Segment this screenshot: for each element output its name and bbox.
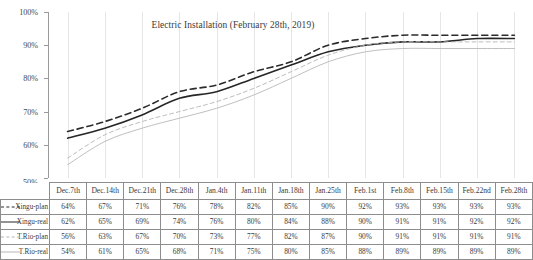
table-cell: 69% <box>124 215 161 230</box>
table-cell: 85% <box>272 200 309 215</box>
y-tick-label: 100% <box>19 8 38 17</box>
table-column-header: Dec.14th <box>87 183 124 200</box>
table-cell: 92% <box>347 200 384 215</box>
table-cell: 73% <box>198 230 235 245</box>
legend-cell: Xingu-plan <box>1 200 50 215</box>
table-cell: 89% <box>421 245 458 260</box>
chart-plot-area: 100%90%80%70%60% Electric Installation (… <box>0 0 533 182</box>
table-cell: 61% <box>87 245 124 260</box>
table-corner-cell <box>1 183 50 200</box>
table-row: Xingu-real62%65%69%74%76%80%84%88%90%91%… <box>1 215 533 230</box>
table-cell: 62% <box>50 215 87 230</box>
table-cell: 64% <box>50 200 87 215</box>
table-cell: 91% <box>458 230 495 245</box>
table-cell: 85% <box>309 245 346 260</box>
table-column-header: Jan.11th <box>235 183 272 200</box>
table-cell: 89% <box>495 245 532 260</box>
legend-label: Xingu-plan <box>15 200 48 214</box>
legend-label: T.Rio-real <box>19 245 48 259</box>
table-cell: 70% <box>161 230 198 245</box>
legend-cell: Xingu-real <box>1 215 50 230</box>
table-column-header: Feb.15th <box>421 183 458 200</box>
table-cell: 93% <box>421 200 458 215</box>
table-column-header: Jan.4th <box>198 183 235 200</box>
dark-solid-line-icon <box>1 219 14 225</box>
table-cell: 74% <box>161 215 198 230</box>
table-row: T.Rio-plan56%63%67%70%73%77%82%87%90%91%… <box>1 230 533 245</box>
y-tick-mark <box>44 178 48 179</box>
series-line-xingu-real <box>68 38 515 138</box>
table-column-header: Dec.28th <box>161 183 198 200</box>
dark-dashed-line-icon <box>1 204 12 210</box>
table-body: Xingu-plan64%67%71%76%78%82%85%90%92%93%… <box>1 200 533 260</box>
y-axis: 100%90%80%70%60% <box>0 0 44 182</box>
y-tick-label: 60% <box>23 140 38 149</box>
y-tick-mark <box>44 145 48 146</box>
table-cell: 63% <box>87 230 124 245</box>
table-cell: 71% <box>124 200 161 215</box>
table-cell: 54% <box>50 245 87 260</box>
table-column-header: Dec.21th <box>124 183 161 200</box>
y-tick-mark <box>44 45 48 46</box>
table-cell: 87% <box>309 230 346 245</box>
data-table-wrap: Dec.7thDec.14thDec.21thDec.28thJan.4thJa… <box>0 182 533 256</box>
table-column-header: Feb.8th <box>384 183 421 200</box>
y-tick-mark <box>44 112 48 113</box>
light-dashed-line-icon <box>1 234 14 240</box>
table-cell: 84% <box>272 215 309 230</box>
y-tick-label: 70% <box>23 107 38 116</box>
table-cell: 92% <box>495 215 532 230</box>
table-cell: 93% <box>495 200 532 215</box>
legend-cell: T.Rio-real <box>1 245 50 260</box>
table-cell: 90% <box>347 215 384 230</box>
y-tick-mark <box>44 12 48 13</box>
table-cell: 75% <box>235 245 272 260</box>
table-cell: 91% <box>421 215 458 230</box>
table-column-header: Dec.7th <box>50 183 87 200</box>
table-column-header: Feb.22nd <box>458 183 495 200</box>
table-cell: 93% <box>458 200 495 215</box>
table-row: Xingu-plan64%67%71%76%78%82%85%90%92%93%… <box>1 200 533 215</box>
table-cell: 80% <box>272 245 309 260</box>
table-cell: 91% <box>495 230 532 245</box>
table-cell: 82% <box>235 200 272 215</box>
table-cell: 76% <box>198 215 235 230</box>
table-cell: 90% <box>309 200 346 215</box>
table-cell: 68% <box>161 245 198 260</box>
legend-label: Xingu-real <box>17 215 48 229</box>
table-cell: 88% <box>309 215 346 230</box>
table-column-header: Feb.1st <box>347 183 384 200</box>
table-cell: 80% <box>235 215 272 230</box>
table-cell: 56% <box>50 230 87 245</box>
table-cell: 65% <box>124 245 161 260</box>
table-cell: 91% <box>384 230 421 245</box>
table-cell: 89% <box>384 245 421 260</box>
table-cell: 78% <box>198 200 235 215</box>
data-table: Dec.7thDec.14thDec.21thDec.28thJan.4thJa… <box>0 182 533 260</box>
y-tick-label: 90% <box>23 41 38 50</box>
table-cell: 88% <box>347 245 384 260</box>
table-cell: 92% <box>458 215 495 230</box>
table-cell: 91% <box>421 230 458 245</box>
series-lines <box>48 12 533 178</box>
y-tick-mark <box>44 78 48 79</box>
table-cell: 89% <box>458 245 495 260</box>
light-solid-line-icon <box>1 249 16 255</box>
series-line-t-rio-plan <box>68 42 515 158</box>
table-column-header: Jan.18th <box>272 183 309 200</box>
legend-cell: T.Rio-plan <box>1 230 50 245</box>
table-cell: 93% <box>384 200 421 215</box>
table-cell: 90% <box>347 230 384 245</box>
table-cell: 71% <box>198 245 235 260</box>
table-cell: 76% <box>161 200 198 215</box>
table-cell: 77% <box>235 230 272 245</box>
table-cell: 91% <box>384 215 421 230</box>
table-column-header: Jan.25th <box>309 183 346 200</box>
table-header-row: Dec.7thDec.14thDec.21thDec.28thJan.4thJa… <box>1 183 533 200</box>
table-cell: 67% <box>124 230 161 245</box>
table-cell: 82% <box>272 230 309 245</box>
table-column-header: Feb.28th <box>495 183 532 200</box>
table-cell: 67% <box>87 200 124 215</box>
table-row: T.Rio-real54%61%65%68%71%75%80%85%88%89%… <box>1 245 533 260</box>
